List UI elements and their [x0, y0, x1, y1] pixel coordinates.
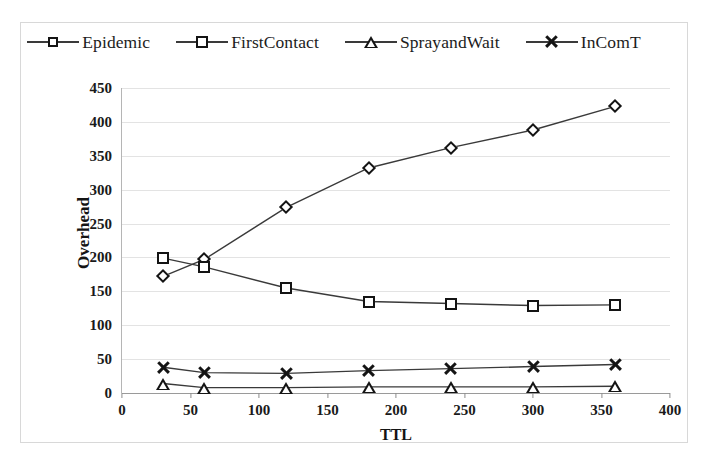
data-point-incomt: [444, 362, 458, 376]
gridlines: [122, 88, 670, 393]
x-marker-icon: [444, 362, 458, 376]
data-point-incomt: [156, 360, 170, 374]
gridline: [122, 224, 670, 225]
data-point-epidemic: [446, 143, 456, 153]
x-tick-mark: [395, 393, 396, 398]
diamond-marker-icon: [608, 99, 622, 113]
gridline: [122, 122, 670, 123]
data-point-firstcontact: [157, 252, 169, 264]
x-marker-icon: [197, 366, 211, 380]
x-marker-icon: [526, 360, 540, 374]
y-tick-label: 200: [90, 249, 113, 266]
x-tick-label: 100: [248, 402, 271, 419]
x-tick-label: 50: [183, 402, 198, 419]
x-marker-icon: [279, 366, 293, 380]
gridline: [122, 359, 670, 360]
y-axis-line: [121, 88, 122, 393]
data-point-firstcontact: [363, 296, 375, 308]
triangle-marker-icon: [608, 380, 622, 392]
data-point-sprayandwait: [526, 381, 540, 393]
y-tick-label: 300: [90, 181, 113, 198]
data-point-incomt: [197, 366, 211, 380]
square-marker-icon: [445, 298, 457, 310]
diamond-marker-icon: [279, 200, 293, 214]
data-point-firstcontact: [609, 299, 621, 311]
x-tick-mark: [601, 393, 602, 398]
data-point-sprayandwait: [608, 380, 622, 392]
x-marker-icon: [362, 364, 376, 378]
diamond-marker-icon: [362, 161, 376, 175]
data-point-incomt: [608, 358, 622, 372]
diamond-marker-icon: [444, 141, 458, 155]
data-point-firstcontact: [445, 298, 457, 310]
data-point-epidemic: [364, 163, 374, 173]
data-point-sprayandwait: [197, 382, 211, 394]
data-point-firstcontact: [198, 261, 210, 273]
plot-area: 0501001502002503003504004500501001502002…: [122, 88, 670, 393]
triangle-marker-icon: [197, 382, 211, 394]
y-tick-label: 250: [90, 215, 113, 232]
x-tick-label: 250: [453, 402, 476, 419]
gridline: [122, 291, 670, 292]
square-marker-icon: [609, 299, 621, 311]
data-point-epidemic: [281, 202, 291, 212]
x-axis-label: TTL: [122, 426, 670, 444]
triangle-marker-icon: [362, 381, 376, 393]
x-tick-mark: [258, 393, 259, 398]
x-tick-mark: [532, 393, 533, 398]
x-tick-mark: [327, 393, 328, 398]
triangle-marker-icon: [279, 382, 293, 394]
x-marker-icon: [608, 358, 622, 372]
triangle-marker-icon: [444, 381, 458, 393]
y-tick-label: 0: [105, 385, 113, 402]
plot-wrapper: Overhead TTL 050100150200250300350400450…: [20, 22, 688, 443]
y-tick-label: 50: [97, 351, 112, 368]
square-marker-icon: [363, 296, 375, 308]
gridline: [122, 156, 670, 157]
data-point-epidemic: [528, 125, 538, 135]
x-marker-icon: [156, 360, 170, 374]
data-point-sprayandwait: [156, 378, 170, 390]
triangle-marker-icon: [526, 381, 540, 393]
data-point-sprayandwait: [362, 381, 376, 393]
data-point-incomt: [362, 364, 376, 378]
gridline: [122, 88, 670, 89]
y-tick-label: 350: [90, 147, 113, 164]
data-point-firstcontact: [527, 300, 539, 312]
diamond-marker-icon: [156, 269, 170, 283]
x-tick-mark: [669, 393, 670, 398]
y-tick-label: 100: [90, 317, 113, 334]
y-tick-label: 150: [90, 283, 113, 300]
gridline: [122, 190, 670, 191]
x-tick-mark: [464, 393, 465, 398]
data-point-epidemic: [610, 101, 620, 111]
x-tick-label: 200: [385, 402, 408, 419]
x-tick-label: 150: [316, 402, 339, 419]
x-tick-label: 400: [659, 402, 682, 419]
data-point-incomt: [279, 366, 293, 380]
data-point-firstcontact: [280, 282, 292, 294]
x-tick-label: 0: [118, 402, 126, 419]
x-tick-mark: [190, 393, 191, 398]
diamond-marker-icon: [526, 123, 540, 137]
x-tick-label: 300: [522, 402, 545, 419]
x-tick-label: 350: [590, 402, 613, 419]
square-marker-icon: [157, 252, 169, 264]
square-marker-icon: [280, 282, 292, 294]
y-tick-label: 450: [90, 80, 113, 97]
x-tick-mark: [121, 393, 122, 398]
square-marker-icon: [198, 261, 210, 273]
data-point-sprayandwait: [444, 381, 458, 393]
square-marker-icon: [527, 300, 539, 312]
data-point-incomt: [526, 360, 540, 374]
gridline: [122, 325, 670, 326]
triangle-marker-icon: [156, 378, 170, 390]
data-point-sprayandwait: [279, 382, 293, 394]
data-point-epidemic: [158, 271, 168, 281]
y-tick-label: 400: [90, 113, 113, 130]
